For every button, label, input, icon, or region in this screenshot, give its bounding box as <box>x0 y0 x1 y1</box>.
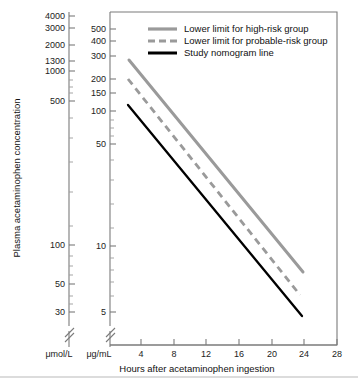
xtick-6: 28 <box>332 349 342 359</box>
ytick-left-6: 100 <box>50 240 65 250</box>
xtick-3: 16 <box>234 349 244 359</box>
ytick-left-2: 2000 <box>45 40 65 50</box>
axis-left-umol: 4000 3000 2000 1300 1000 500 100 50 30 <box>45 11 75 347</box>
series-line-probable-risk <box>128 79 300 295</box>
axis-x: 4 8 12 16 20 24 28 <box>110 339 342 359</box>
ytick-left-1: 3000 <box>45 23 65 33</box>
ytick-left-4: 1000 <box>45 66 65 76</box>
series-lines <box>128 60 303 316</box>
legend-item-study-nomogram[interactable]: Study nomogram line <box>148 47 274 58</box>
xtick-2: 12 <box>201 349 211 359</box>
ytick-right-4: 150 <box>91 88 106 98</box>
plot-frame <box>110 12 337 345</box>
xtick-0: 4 <box>138 349 143 359</box>
ytick-right-1: 400 <box>91 36 106 46</box>
legend: Lower limit for high-risk group Lower li… <box>148 23 328 58</box>
ytick-left-7: 50 <box>55 279 65 289</box>
ytick-right-6: 50 <box>96 139 106 149</box>
legend-item-probable-risk[interactable]: Lower limit for probable-risk group <box>148 35 328 46</box>
ytick-right-7: 10 <box>96 241 106 251</box>
ytick-right-2: 300 <box>91 51 106 61</box>
nomogram-figure: 4000 3000 2000 1300 1000 500 100 50 30 <box>0 0 358 392</box>
legend-label-1: Lower limit for probable-risk group <box>184 35 328 46</box>
ytick-right-0: 500 <box>91 24 106 34</box>
ytick-right-3: 200 <box>91 74 106 84</box>
unit-label-umol: μmol/L <box>45 349 72 359</box>
series-line-study-nomogram <box>128 105 302 316</box>
ytick-right-5: 100 <box>91 106 106 116</box>
legend-item-high-risk[interactable]: Lower limit for high-risk group <box>148 23 309 34</box>
ytick-left-8: 30 <box>55 307 65 317</box>
chart-svg: 4000 3000 2000 1300 1000 500 100 50 30 <box>0 0 358 392</box>
xtick-4: 20 <box>267 349 277 359</box>
series-line-high-risk <box>129 60 303 272</box>
y-axis-title: Plasma acetaminophen concentration <box>11 99 22 258</box>
ytick-left-5: 500 <box>50 96 65 106</box>
ytick-right-8: 5 <box>101 307 106 317</box>
xtick-5: 24 <box>299 349 309 359</box>
x-axis-title: Hours after acetaminophen ingestion <box>119 363 274 374</box>
ytick-left-0: 4000 <box>45 11 65 21</box>
legend-label-2: Study nomogram line <box>184 47 274 58</box>
xtick-1: 8 <box>171 349 176 359</box>
unit-label-ugml: μg/mL <box>86 349 111 359</box>
ytick-left-3: 1300 <box>45 56 65 66</box>
legend-label-0: Lower limit for high-risk group <box>184 23 309 34</box>
axis-right-ugml: 500 400 300 200 150 100 50 10 5 <box>91 12 116 347</box>
